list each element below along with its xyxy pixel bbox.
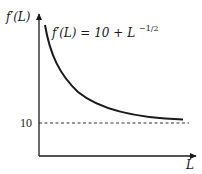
tick-label-10: 10: [20, 116, 32, 130]
chart-figure: f′(L) L 10 f′(L) = 10 + L −1/2: [0, 0, 202, 174]
curve-label: f′(L) = 10 + L −1/2: [51, 24, 159, 40]
curve-label-exponent: −1/2: [139, 24, 159, 33]
x-axis-label: L: [185, 158, 194, 172]
y-axis-label: f′(L): [5, 10, 31, 24]
curve-label-main: f′(L) = 10 + L: [51, 26, 135, 40]
